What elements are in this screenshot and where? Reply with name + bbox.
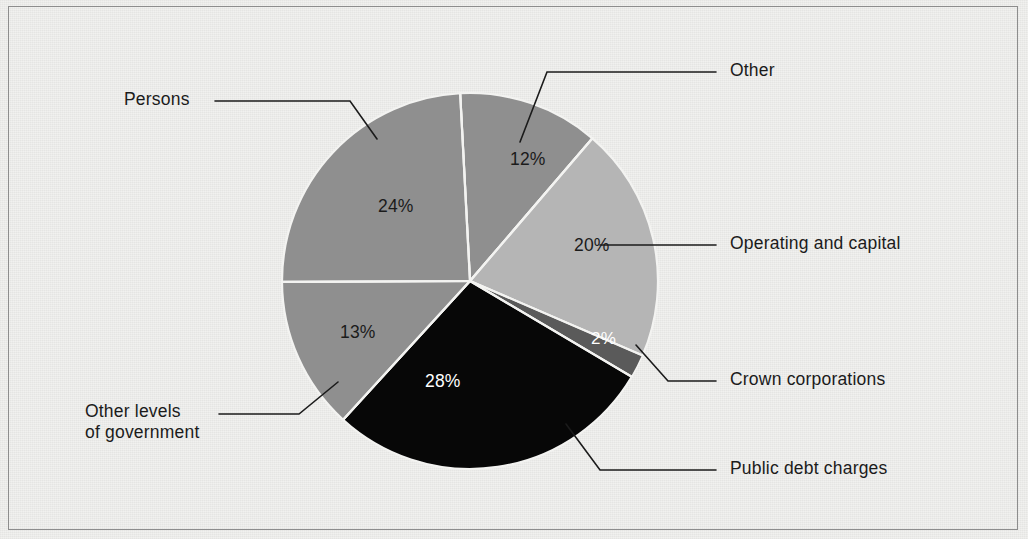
pie-slices	[282, 93, 658, 469]
value-label-crown-corporations: 2%	[591, 328, 616, 349]
callout-label-operating-and-capital: Operating and capital	[730, 233, 901, 254]
callout-label-public-debt-charges: Public debt charges	[730, 458, 888, 479]
callout-label-other-levels-line1: Other levels	[85, 401, 181, 421]
value-label-public-debt-charges: 28%	[425, 371, 461, 392]
leader-line-public-debt-charges	[566, 424, 716, 470]
value-label-other: 12%	[510, 149, 546, 170]
pie-slice-persons[interactable]	[282, 93, 470, 282]
value-label-operating-and-capital: 20%	[574, 235, 610, 256]
callout-label-persons: Persons	[124, 89, 190, 110]
callout-label-other-levels-line2: of government	[85, 422, 199, 442]
value-label-other-levels-of-government: 13%	[340, 322, 376, 343]
callout-label-crown-corporations: Crown corporations	[730, 369, 885, 390]
callout-label-other-levels-of-government: Other levels of government	[85, 401, 275, 443]
callout-label-other: Other	[730, 60, 775, 81]
leader-line-crown-corporations	[636, 345, 716, 381]
value-label-persons: 24%	[378, 196, 414, 217]
